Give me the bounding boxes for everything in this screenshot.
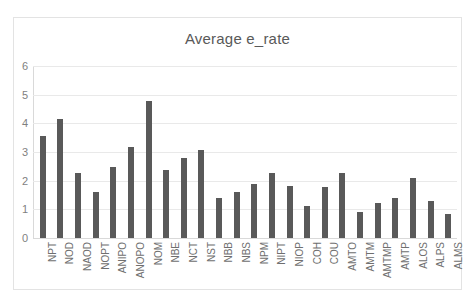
x-tick-label: AMTMP — [382, 242, 393, 278]
plot-area: 0123456 — [33, 66, 457, 238]
y-tick-label: 1 — [22, 203, 28, 215]
y-tick-label: 4 — [22, 117, 28, 129]
bar-slot — [228, 66, 246, 238]
bar — [269, 173, 275, 238]
x-tick-label: COH — [312, 242, 323, 264]
bar — [216, 198, 222, 238]
chart-title: Average e_rate — [14, 30, 461, 47]
bar — [392, 198, 398, 238]
bar — [57, 119, 63, 238]
bar — [339, 173, 345, 238]
x-tick-label: ALMS — [453, 242, 464, 269]
bar-slot — [369, 66, 387, 238]
y-tick-label: 0 — [22, 232, 28, 244]
x-tick-label: AMTM — [365, 242, 376, 271]
bar — [146, 101, 152, 238]
bar — [375, 203, 381, 238]
bar — [75, 173, 81, 238]
bar — [410, 178, 416, 238]
x-tick-label: NOM — [153, 242, 164, 265]
bar — [198, 150, 204, 238]
x-tick-label: AMTO — [347, 242, 358, 271]
x-tick-label: COU — [329, 242, 340, 264]
bar-slot — [281, 66, 299, 238]
bar-slot — [122, 66, 140, 238]
bar — [428, 201, 434, 238]
x-tick-label: AMTP — [400, 242, 411, 270]
y-tick-label: 5 — [22, 89, 28, 101]
bar-slot — [351, 66, 369, 238]
bar — [128, 147, 134, 238]
bar-slot — [175, 66, 193, 238]
bar — [40, 136, 46, 238]
bar-slot — [193, 66, 211, 238]
bar-slot — [439, 66, 457, 238]
bar — [181, 158, 187, 238]
x-tick-label: NPM — [259, 242, 270, 264]
x-tick-label: ALOS — [418, 242, 429, 269]
bar-slot — [157, 66, 175, 238]
bar-slot — [334, 66, 352, 238]
bar — [287, 186, 293, 238]
bar-series — [34, 66, 457, 238]
bar-slot — [34, 66, 52, 238]
y-tick-label: 6 — [22, 60, 28, 72]
bar — [251, 184, 257, 238]
bar-slot — [263, 66, 281, 238]
bar — [445, 214, 451, 238]
bar-slot — [210, 66, 228, 238]
x-axis-labels: NPTNODNAODNOPTANIPOANOPONOMNBENCTNSTNBBN… — [34, 238, 458, 307]
chart-container: Average e_rate 0123456 NPTNODNAODNOPTANI… — [13, 17, 462, 290]
x-tick-label: NCT — [188, 242, 199, 263]
bar-slot — [298, 66, 316, 238]
x-tick-label: NST — [206, 242, 217, 262]
x-tick-label: ANIPO — [117, 242, 128, 273]
bar-slot — [140, 66, 158, 238]
bar-slot — [422, 66, 440, 238]
bar — [322, 187, 328, 238]
bar — [357, 212, 363, 238]
bar — [110, 167, 116, 238]
bar-slot — [52, 66, 70, 238]
bar-slot — [404, 66, 422, 238]
x-tick-label: NIOP — [294, 242, 305, 266]
x-tick-label: NPT — [47, 242, 58, 262]
y-tick-label: 2 — [22, 175, 28, 187]
x-tick-label: NBS — [241, 242, 252, 263]
bar-slot — [69, 66, 87, 238]
bar-slot — [316, 66, 334, 238]
bar — [93, 192, 99, 238]
x-tick-label: NOD — [64, 242, 75, 264]
x-tick-label: ALPS — [435, 242, 446, 268]
bar-slot — [87, 66, 105, 238]
x-tick-label: NOPT — [100, 242, 111, 270]
bar — [304, 206, 310, 238]
x-tick-label: NBE — [170, 242, 181, 263]
bar-slot — [104, 66, 122, 238]
bar-slot — [387, 66, 405, 238]
x-tick-label: NBB — [223, 242, 234, 263]
x-tick-label: NIPT — [276, 242, 287, 265]
bar — [234, 192, 240, 238]
x-tick-label: ANOPO — [135, 242, 146, 278]
bar-slot — [246, 66, 264, 238]
bar — [163, 170, 169, 238]
x-tick-label: NAOD — [82, 242, 93, 271]
y-tick-label: 3 — [22, 146, 28, 158]
